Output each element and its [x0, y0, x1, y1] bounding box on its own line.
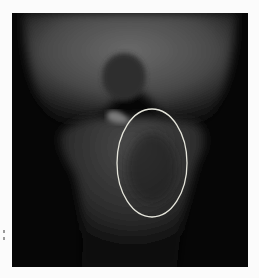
xray-image [12, 13, 248, 267]
film-marks [3, 230, 6, 250]
knee-radiograph [12, 13, 248, 267]
